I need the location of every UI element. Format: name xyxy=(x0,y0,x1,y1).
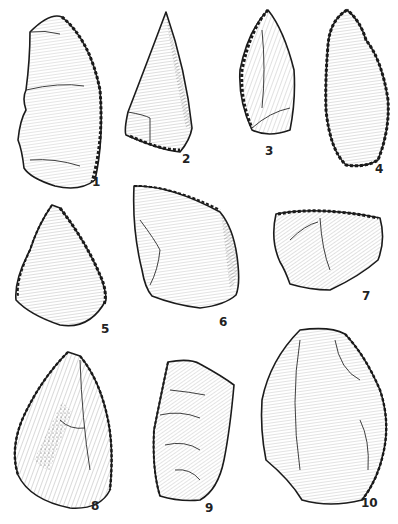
artifact-label-3: 3 xyxy=(265,145,273,157)
artifact-label-7: 7 xyxy=(362,290,370,302)
artifact-5-point xyxy=(16,205,106,326)
artifact-label-1: 1 xyxy=(92,176,100,188)
artifact-8-handaxe xyxy=(15,352,112,508)
artifact-label-4: 4 xyxy=(375,163,383,175)
artifact-label-8: 8 xyxy=(91,500,99,512)
artifact-2-point xyxy=(125,12,192,152)
artifact-label-9: 9 xyxy=(205,502,213,514)
artifact-6-flake xyxy=(134,186,239,308)
artifact-7-scraper xyxy=(274,211,383,290)
artifact-label-5: 5 xyxy=(101,323,109,335)
artifact-10-handaxe xyxy=(262,329,387,504)
artifact-label-10: 10 xyxy=(361,497,378,509)
artifact-plate xyxy=(0,0,398,524)
artifact-1-side-scraper xyxy=(18,16,101,188)
artifact-4-elongated-scraper xyxy=(326,10,389,166)
artifact-3-point xyxy=(240,10,295,134)
artifact-9-core-tool xyxy=(154,360,234,500)
artifact-label-2: 2 xyxy=(182,153,190,165)
artifact-label-6: 6 xyxy=(219,316,227,328)
